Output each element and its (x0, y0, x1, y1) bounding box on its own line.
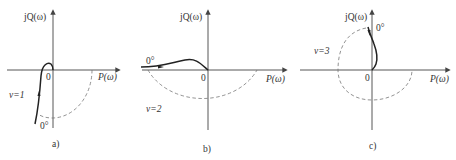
x-axis-label-a: P(ω) (97, 72, 117, 83)
x-axis-label-b: P(ω) (265, 74, 285, 85)
caption-a: a) (52, 139, 59, 150)
caption-c: c) (369, 141, 376, 152)
panel-b: jQ(ω) P(ω) 0 v=2 0° b) (141, 12, 285, 155)
origin-label-b: 0 (201, 73, 206, 83)
x-axis-label-c: P(ω) (429, 74, 449, 85)
type-label-a: v=1 (9, 90, 24, 100)
type-label-b: v=2 (146, 104, 162, 114)
origin-label-a: 0 (46, 72, 51, 82)
y-axis-label-b: jQ(ω) (179, 12, 202, 23)
caption-b: b) (203, 144, 211, 155)
origin-label-c: 0 (365, 73, 370, 83)
nyquist-figure: jQ(ω) P(ω) 0 v=1 0° a) jQ(ω) P(ω) 0 v=2 … (0, 0, 456, 160)
direction-arrow-b (158, 66, 164, 69)
panel-a: jQ(ω) P(ω) 0 v=1 0° a) (7, 12, 118, 150)
type-label-c: v=3 (314, 46, 330, 56)
dashed-arc-c (338, 28, 412, 100)
angle-label-a: 0° (40, 121, 49, 131)
angle-label-c: 0° (376, 23, 385, 33)
angle-label-b: 0° (146, 56, 155, 66)
panel-c: jQ(ω) P(ω) 0 v=3 0° c) (300, 12, 449, 152)
y-axis-label-a: jQ(ω) (23, 12, 46, 23)
y-axis-label-c: jQ(ω) (344, 12, 367, 23)
